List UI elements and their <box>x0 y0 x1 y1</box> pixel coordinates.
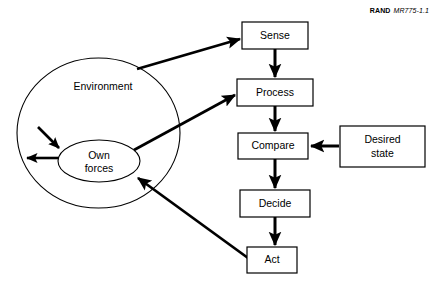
node-act-label: Act <box>264 253 279 265</box>
figure-credit-doc-id: MR775-1.1 <box>393 7 429 14</box>
edge-own-forces-to-process <box>134 95 235 150</box>
edge-act-to-own-forces <box>138 178 248 258</box>
own-forces-ellipse <box>58 140 140 182</box>
node-decide-label: Decide <box>259 197 292 209</box>
figure-credit: RANDMR775-1.1 <box>370 7 429 14</box>
node-desired-state-label-line2: state <box>371 147 394 159</box>
edge-environment-into-own-forces <box>38 127 59 148</box>
own-forces-label-line1: Own <box>88 149 110 161</box>
node-desired-state-label-line1: Desired <box>364 133 400 145</box>
node-compare-label: Compare <box>251 139 294 151</box>
own-forces-label-line2: forces <box>85 162 114 174</box>
node-process-label: Process <box>256 86 294 98</box>
figure-canvas: Environment Own forces Sense Process Com… <box>0 0 435 289</box>
diagram-svg: Environment Own forces Sense Process Com… <box>0 0 435 289</box>
figure-credit-brand: RAND <box>370 7 391 14</box>
environment-label: Environment <box>74 80 133 92</box>
edge-environment-to-sense <box>137 39 240 69</box>
node-sense-label: Sense <box>260 29 290 41</box>
